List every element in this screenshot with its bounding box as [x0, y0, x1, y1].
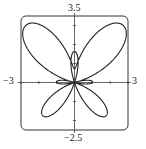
axes: [18, 13, 131, 133]
xmax-label: 3: [132, 76, 137, 86]
ymax-label: 3.5: [68, 3, 81, 13]
ymin-label: −2.5: [64, 133, 82, 143]
polar-plot: [0, 0, 146, 149]
xmin-label: −3: [3, 76, 14, 86]
